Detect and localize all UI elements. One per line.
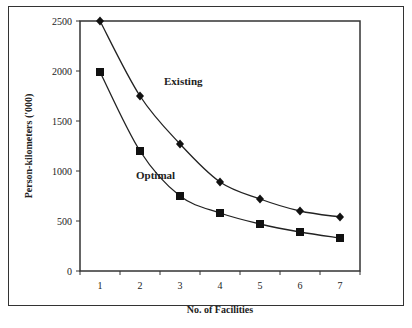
x-tick-label: 3 (178, 280, 183, 291)
y-tick-label: 1000 (52, 166, 72, 177)
series-label-existing: Existing (164, 75, 203, 87)
diamond-marker (256, 195, 264, 204)
x-tick-label: 6 (298, 280, 303, 291)
y-tick-label: 0 (67, 266, 72, 277)
y-tick-label: 500 (57, 216, 72, 227)
x-tick-label: 7 (338, 280, 343, 291)
square-marker (216, 209, 224, 217)
square-marker (256, 220, 264, 228)
line-chart: 050010001500200025001234567No. of Facili… (0, 0, 412, 328)
x-tick-label: 4 (218, 280, 223, 291)
square-marker (136, 147, 144, 155)
square-marker (176, 192, 184, 200)
y-axis-label: Person-kilometers ('000) (23, 94, 35, 199)
diamond-marker (216, 178, 224, 187)
x-axis-label: No. of Facilities (187, 304, 253, 315)
plot-area (80, 21, 360, 271)
series-label-optimal: Optimal (136, 169, 175, 181)
diamond-marker (96, 17, 104, 26)
square-marker (96, 68, 104, 76)
x-tick-label: 5 (258, 280, 263, 291)
square-marker (336, 234, 344, 242)
square-marker (296, 228, 304, 236)
diamond-marker (296, 207, 304, 216)
y-tick-label: 2500 (52, 16, 72, 27)
y-tick-label: 1500 (52, 116, 72, 127)
diamond-marker (336, 213, 344, 222)
x-tick-label: 1 (98, 280, 103, 291)
series-line-existing (100, 21, 340, 217)
x-tick-label: 2 (138, 280, 143, 291)
y-tick-label: 2000 (52, 66, 72, 77)
